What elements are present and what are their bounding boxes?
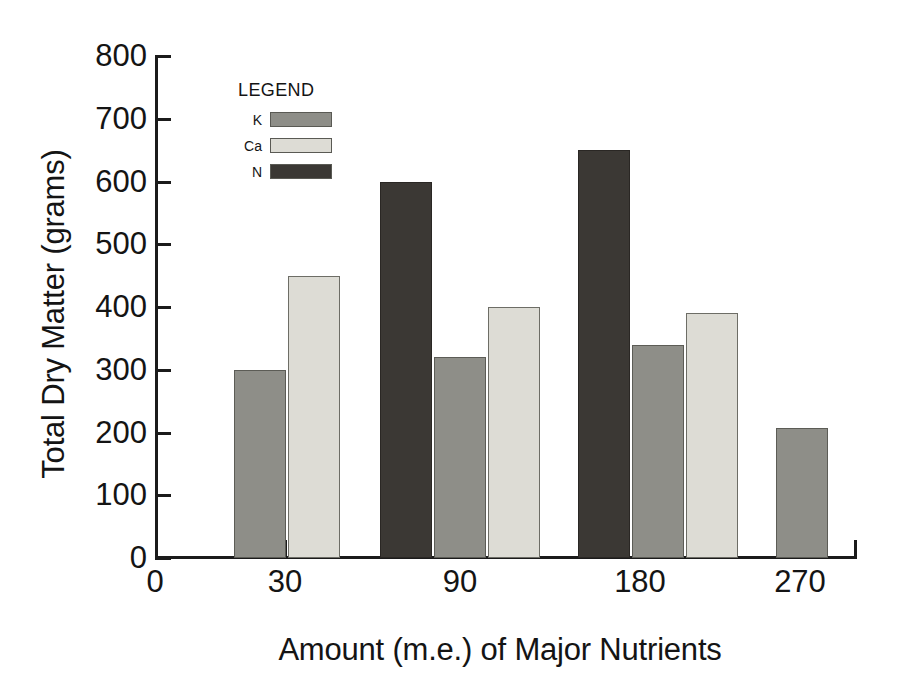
x-axis-tick-label: 30 (230, 566, 340, 597)
y-axis-tick-label: 100 (57, 479, 147, 510)
legend-title: LEGEND (232, 80, 392, 101)
x-axis-tick-label: 270 (745, 566, 855, 597)
legend-item-label: Ca (232, 139, 270, 153)
bar-270-K (776, 428, 828, 558)
x-axis-title: Amount (m.e.) of Major Nutrients (120, 632, 880, 668)
legend-swatch-N (270, 164, 332, 179)
bar-chart: Total Dry Matter (grams) Amount (m.e.) o… (0, 0, 914, 696)
bar-90-Ca (488, 307, 540, 558)
bar-180-K (632, 345, 684, 558)
y-axis-tick-label: 200 (57, 417, 147, 448)
legend-swatch-K (270, 112, 332, 127)
y-axis-tick-label: 300 (57, 354, 147, 385)
y-axis-tick-label: 400 (57, 291, 147, 322)
x-axis-tick-label: 0 (100, 566, 210, 597)
legend-item-K: K (232, 109, 392, 130)
legend-item-label: N (232, 165, 270, 179)
x-axis-tick-label: 180 (585, 566, 695, 597)
legend-items: KCaN (232, 109, 392, 182)
legend-item-N: N (232, 161, 392, 182)
bar-180-N (578, 150, 630, 558)
legend: LEGEND KCaN (232, 80, 392, 187)
bar-90-K (434, 357, 486, 558)
legend-swatch-Ca (270, 138, 332, 153)
bar-30-Ca (288, 276, 340, 558)
bar-180-Ca (686, 313, 738, 558)
y-axis-tick-label: 700 (57, 103, 147, 134)
bar-90-N (380, 182, 432, 559)
legend-item-Ca: Ca (232, 135, 392, 156)
y-axis-tick-label: 500 (57, 228, 147, 259)
legend-item-label: K (232, 113, 270, 127)
y-axis-tick-label: 800 (57, 40, 147, 71)
y-axis-tick-label: 600 (57, 166, 147, 197)
bar-30-K (234, 370, 286, 558)
x-axis-tick-label: 90 (405, 566, 515, 597)
